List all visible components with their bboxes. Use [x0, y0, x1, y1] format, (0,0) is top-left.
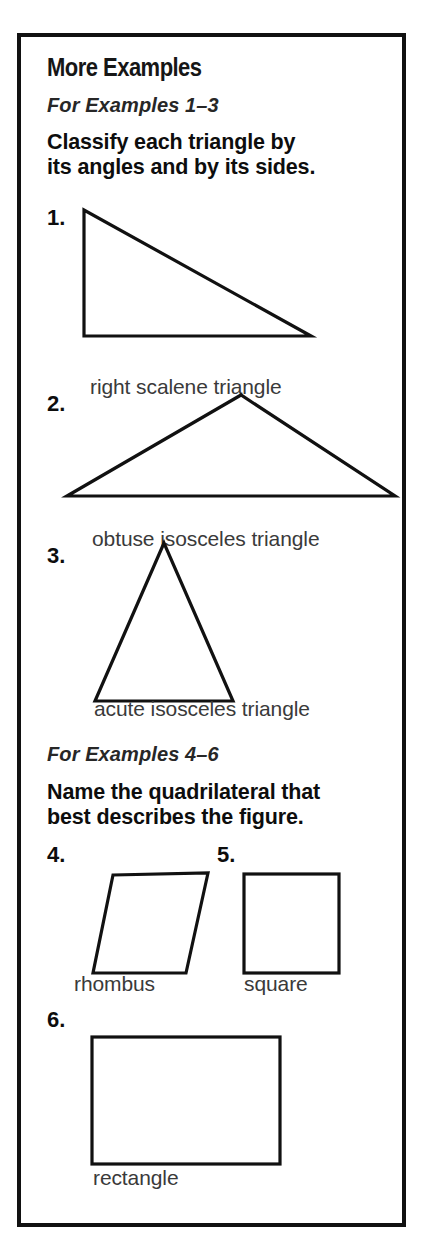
- directions-line-2: its angles and by its sides.: [47, 155, 387, 180]
- directions-line-1: Name the quadrilateral that: [47, 780, 387, 805]
- figure-rhombus: [67, 867, 197, 982]
- answer-caption-3: acute isosceles triangle: [94, 698, 310, 719]
- problem-number-3: 3.: [47, 545, 65, 567]
- answer-caption-5: square: [244, 973, 308, 994]
- obtuse-isosceles-triangle-shape: [67, 395, 395, 496]
- for-examples-4-6-heading: For Examples 4–6: [47, 744, 219, 764]
- directions-line-1: Classify each triangle by: [47, 130, 387, 155]
- problem-number-4: 4.: [47, 844, 65, 866]
- problem-number-6: 6.: [47, 1009, 65, 1031]
- figure-right-scalene-triangle: [76, 202, 326, 342]
- card-inner: More Examples For Examples 1–3 Classify …: [21, 37, 402, 1223]
- square-shape: [244, 874, 339, 973]
- acute-isosceles-triangle-shape: [95, 543, 233, 701]
- page-title: More Examples: [47, 55, 202, 80]
- directions-line-2: best describes the figure.: [47, 805, 387, 830]
- for-examples-1-3-heading: For Examples 1–3: [47, 95, 219, 115]
- figure-acute-isosceles-triangle: [83, 535, 263, 710]
- more-examples-card: More Examples For Examples 1–3 Classify …: [17, 33, 406, 1227]
- right-scalene-triangle-shape: [84, 210, 311, 336]
- figure-square: [237, 867, 357, 982]
- rectangle-shape: [92, 1037, 280, 1164]
- figure-obtuse-isosceles-triangle: [59, 387, 399, 502]
- problem-number-5: 5.: [217, 844, 235, 866]
- problem-number-1: 1.: [47, 207, 65, 229]
- directions-classify-triangles: Classify each triangle by its angles and…: [47, 130, 387, 180]
- answer-caption-4: rhombus: [74, 973, 155, 994]
- answer-caption-6: rectangle: [93, 1167, 179, 1188]
- rhombus-shape: [93, 873, 208, 973]
- figure-rectangle: [85, 1030, 310, 1175]
- directions-name-quadrilateral: Name the quadrilateral that best describ…: [47, 780, 387, 830]
